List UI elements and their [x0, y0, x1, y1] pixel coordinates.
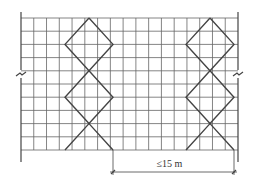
scaffold-grid [21, 18, 238, 150]
break-mark-icon [16, 72, 26, 76]
break-mark-icon [233, 72, 243, 76]
scaffold-bracing-diagram [0, 0, 255, 186]
end-posts [16, 12, 243, 162]
spacing-dimension-label: ≤15 m [157, 158, 183, 169]
